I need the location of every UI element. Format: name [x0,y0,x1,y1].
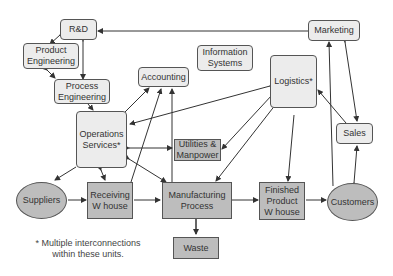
node-information-systems: Information Systems [197,45,253,71]
connector-arrows [0,0,393,276]
node-finished-product-warehouse: Finished Product W house [259,182,305,220]
node-utilities-manpower: Utilities & Manpower [174,139,221,161]
node-waste: Waste [173,237,219,259]
organization-flow-diagram: R&D Product Engineering Process Engineer… [0,0,393,276]
node-accounting: Accounting [138,67,189,87]
node-rd: R&D [60,19,97,40]
node-suppliers: Suppliers [16,182,67,219]
node-logistics: Logistics* [270,55,317,108]
node-customers: Customers [327,183,378,221]
node-receiving-warehouse: Receiving W house [87,182,133,219]
node-operations-services: Operations Services* [76,111,127,168]
node-process-engineering: Process Engineering [54,79,110,104]
node-marketing: Marketing [308,20,360,41]
node-sales: Sales [336,123,373,144]
node-manufacturing-process: Manufacturing Process [162,182,232,219]
node-product-engineering: Product Engineering [23,43,79,69]
footnote: * Multiple interconnections within these… [28,238,148,260]
